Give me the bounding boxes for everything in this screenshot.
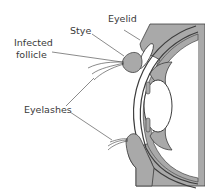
eyelid-leader [124,30,140,40]
infected-follicle-label-line2: follicle [16,49,47,60]
stye-diagram: Eyelid Stye Infected follicle Eyelashes [0,0,205,191]
eyelashes-leader-lower [70,112,112,140]
eye-cross-section-illustration [0,0,205,191]
infected-follicle-label-line1: Infected [14,37,53,48]
eyelid-label: Eyelid [108,13,137,24]
stye [122,52,142,72]
eyelashes-leader-upper [66,78,94,106]
stye-label: Stye [70,25,91,36]
eyelashes-label: Eyelashes [24,104,72,115]
infected-follicle-leader [52,52,122,62]
lower-eyelashes [108,139,128,150]
stye-leader [92,34,124,56]
upper-eyelashes [88,62,124,80]
